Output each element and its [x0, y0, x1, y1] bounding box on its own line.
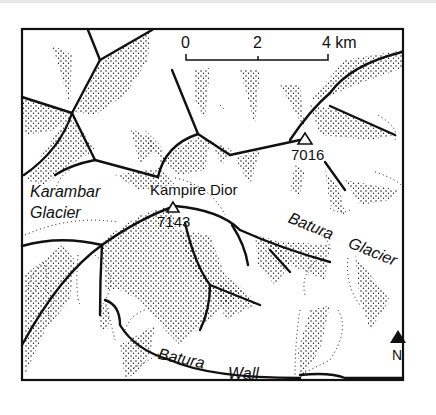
scale-label-0: 0	[181, 35, 190, 51]
karambar-label: Karambar	[30, 184, 100, 200]
scale-label-4km: 4 km	[322, 35, 357, 51]
karambar-glacier-label: Glacier	[30, 205, 81, 221]
kampire-dior-label: Kampire Dior	[150, 182, 238, 197]
peak-elevation-7143: 7143	[157, 214, 190, 229]
north-label: N	[392, 348, 402, 362]
batura-wall-label-2: Wall	[228, 366, 259, 382]
peak-elevation-7016: 7016	[291, 147, 324, 162]
scale-label-2: 2	[253, 35, 262, 51]
